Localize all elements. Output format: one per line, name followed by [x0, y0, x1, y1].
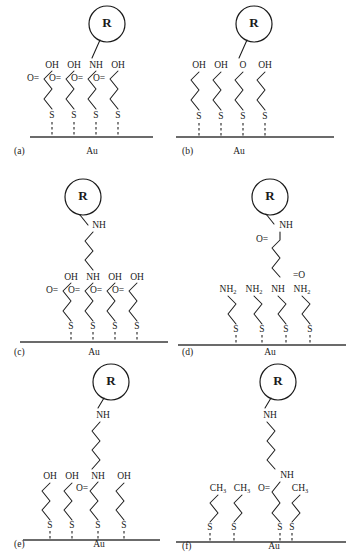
r-group-label-a: R — [102, 15, 112, 30]
terminal-label-b-4: OH — [258, 60, 272, 70]
terminal-label-f-4: CH3 — [292, 483, 308, 494]
sulfur-label-f-1: S — [207, 522, 212, 532]
r-group-label-b: R — [249, 15, 259, 30]
chain-e-4 — [116, 483, 124, 520]
panel-label-d: (d) — [182, 347, 193, 358]
terminal-label-f-1: CH3 — [210, 483, 226, 494]
panel-d: R NH O= =O NH2 NH2 NH NH2 — [174, 175, 347, 350]
r-group-label-f: R — [273, 373, 283, 388]
carbonyl-label-a-3: O= — [71, 73, 83, 83]
sulfur-label-d-3: S — [283, 324, 288, 334]
terminal-label-e-1: OH — [43, 471, 57, 481]
terminal-label-f-2: CH3 — [234, 483, 250, 494]
sulfur-label-e-3: S — [95, 520, 100, 530]
sulfur-label-a-1: S — [49, 110, 54, 120]
sulfur-label-c-3: S — [112, 321, 117, 331]
substrate-label-c: Au — [88, 347, 100, 357]
sulfur-label-c-2: S — [90, 321, 95, 331]
sulfur-label-d-4: S — [307, 324, 312, 334]
panel-label-c: (c) — [14, 347, 25, 358]
r-attachment-bond-c — [80, 215, 88, 225]
sulfur-label-e-2: S — [69, 520, 74, 530]
terminal-label-d-1: NH2 — [220, 284, 237, 295]
terminal-label-c-2: NH — [86, 272, 100, 282]
terminal-label-a-1: OH — [45, 60, 59, 70]
chain-b-2 — [213, 72, 221, 110]
terminal-label-d-3: NH — [271, 284, 285, 294]
substrate-label-e: Au — [93, 539, 105, 549]
terminal-label-c-4: OH — [130, 272, 144, 282]
terminal-label-b-2: OH — [214, 60, 228, 70]
r-attachment-bond-f — [265, 398, 271, 408]
r-group-label-e: R — [106, 373, 116, 388]
carbonyl-label-e-1: O= — [76, 483, 88, 493]
chain-f-2 — [234, 495, 242, 522]
linker-carbonyl-bottom-d: =O — [293, 270, 305, 280]
chain-d-2 — [254, 296, 262, 324]
terminal-label-b-3: O — [240, 60, 247, 70]
sulfur-label-e-1: S — [47, 520, 52, 530]
sam-architecture-figure: R OH OH NH OH O= O= O= O= — [0, 0, 347, 558]
chain-b-1 — [191, 72, 199, 110]
sulfur-label-a-2: S — [71, 110, 76, 120]
linker-chain-d — [272, 232, 280, 277]
substrate-label-d: Au — [264, 347, 276, 357]
linker-amine-label-e: NH — [96, 410, 110, 420]
chain-d-1 — [228, 296, 236, 324]
sulfur-label-d-2: S — [259, 324, 264, 334]
panel-f-caption: Au (f) — [174, 537, 347, 557]
terminal-label-e-4: OH — [117, 471, 131, 481]
carbonyl-label-a-2: O= — [49, 73, 61, 83]
terminal-label-a-2: OH — [67, 60, 81, 70]
sulfur-label-a-3: S — [93, 110, 98, 120]
terminal-label-a-4: OH — [111, 60, 125, 70]
carbonyl-label-c-2: O= — [68, 285, 80, 295]
panel-label-a: (a) — [14, 146, 25, 157]
carbonyl-label-a-4: O= — [93, 73, 105, 83]
carbonyl-label-f-1: O= — [258, 483, 270, 493]
sulfur-label-d-1: S — [233, 324, 238, 334]
chain-a-4 — [110, 71, 118, 109]
r-attachment-bond-a — [92, 40, 100, 58]
sulfur-label-e-4: S — [121, 520, 126, 530]
terminal-label-c-1: OH — [64, 272, 78, 282]
sulfur-label-f-3: S — [277, 522, 282, 532]
panel-c: R NH OH NH OH OH O= O= O= O= — [0, 175, 174, 350]
panel-e: R NH OH OH NH OH O= S — [0, 358, 174, 543]
sulfur-label-b-3: S — [240, 111, 245, 121]
panel-b: R OH OH O OH S S S S — [174, 0, 347, 175]
carbonyl-label-a-1: O= — [27, 73, 39, 83]
sulfur-label-a-4: S — [115, 110, 120, 120]
chain-e-3 — [90, 482, 98, 520]
r-group-label-c: R — [78, 188, 88, 203]
chain-f-1 — [210, 495, 218, 522]
panel-e-caption: Au (e) — [0, 535, 174, 555]
sulfur-label-b-1: S — [196, 111, 201, 121]
terminal-label-c-3: OH — [108, 272, 122, 282]
panel-a: R OH OH NH OH O= O= O= O= — [0, 0, 174, 175]
chain-e-2 — [64, 483, 72, 520]
carbonyl-label-c-3: O= — [90, 285, 102, 295]
linker-amine-label-f: NH — [263, 410, 277, 420]
panel-label-e: (e) — [14, 539, 25, 550]
chain-c-4 — [129, 283, 137, 321]
linker-chain-c — [85, 232, 93, 270]
terminal-label-e-2: OH — [65, 471, 79, 481]
substrate-label-a: Au — [86, 146, 98, 156]
terminal-label-a-3: NH — [89, 60, 103, 70]
panel-label-f: (f) — [182, 541, 192, 552]
sulfur-label-b-4: S — [262, 111, 267, 121]
sulfur-label-f-4: S — [289, 522, 294, 532]
substrate-label-f: Au — [268, 541, 280, 551]
chain-d-4 — [302, 296, 310, 324]
terminal-label-b-1: OH — [192, 60, 206, 70]
amide-nh-label-f: NH — [280, 470, 294, 480]
terminal-label-d-2: NH2 — [246, 284, 263, 295]
substrate-label-b: Au — [233, 146, 245, 156]
terminal-label-d-4: NH2 — [294, 284, 311, 295]
sulfur-label-f-2: S — [231, 522, 236, 532]
sulfur-label-c-1: S — [68, 321, 73, 331]
chain-f-4 — [292, 495, 300, 522]
linker-chain-f — [267, 422, 275, 469]
linker-chain-e — [92, 422, 100, 469]
